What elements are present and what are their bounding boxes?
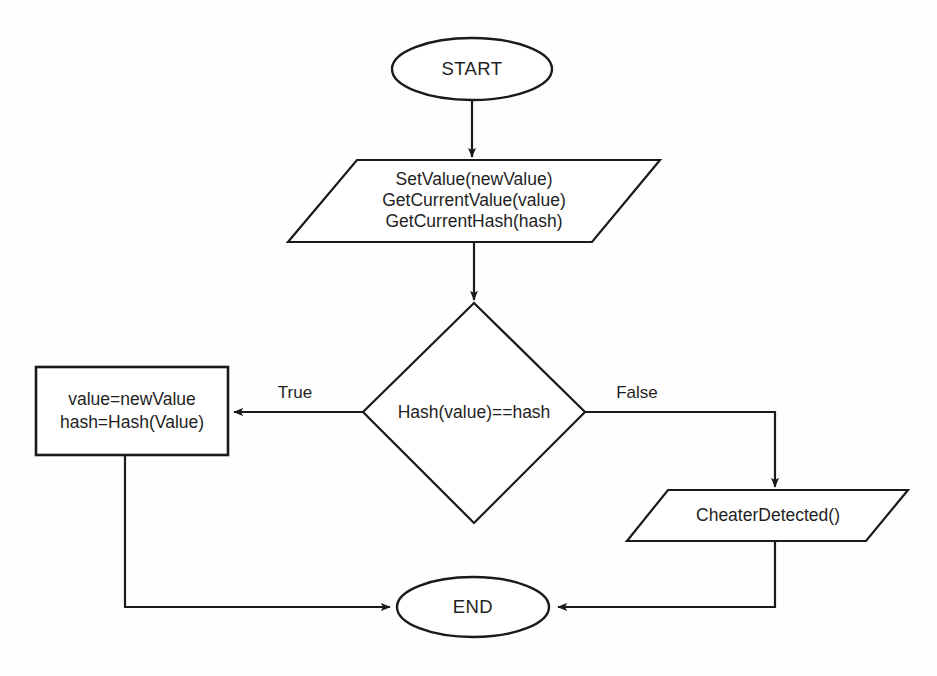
node-start: START: [392, 38, 552, 100]
input-line-2: GetCurrentValue(value): [382, 190, 566, 210]
edge-label-true: True: [278, 383, 312, 402]
assign-line-1: value=newValue: [68, 389, 196, 409]
edge-false-branch: [585, 412, 775, 487]
cheater-label: CheaterDetected(): [696, 505, 840, 525]
input-line-3: GetCurrentHash(hash): [385, 211, 562, 231]
edge-assign-to-end: [125, 455, 390, 607]
input-line-1: SetValue(newValue): [396, 169, 553, 189]
decision-label: Hash(value)==hash: [398, 402, 551, 422]
node-cheater: CheaterDetected(): [627, 490, 908, 541]
node-end: END: [397, 577, 549, 637]
end-label: END: [453, 596, 493, 617]
edge-cheater-to-end: [558, 541, 775, 607]
start-label: START: [442, 58, 503, 79]
node-input-calls: SetValue(newValue) GetCurrentValue(value…: [288, 160, 660, 242]
node-assign: value=newValue hash=Hash(Value): [36, 367, 228, 455]
assign-line-2: hash=Hash(Value): [60, 412, 204, 432]
edge-label-false: False: [616, 383, 658, 402]
node-decision: Hash(value)==hash: [363, 303, 585, 523]
flowchart-diagram: START SetValue(newValue) GetCurrentValue…: [0, 0, 937, 676]
